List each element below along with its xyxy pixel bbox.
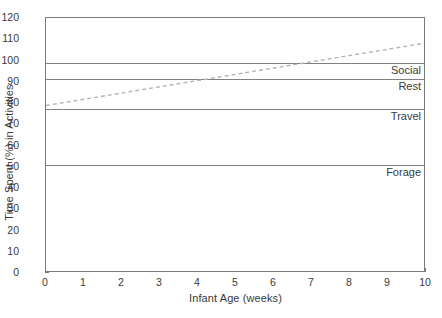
y-tick-label: 100 [0,55,19,65]
x-tick-label: 9 [372,276,402,288]
y-tick-mark [45,272,49,273]
x-tick-mark [425,268,426,272]
x-tick-label: 5 [220,276,250,288]
y-tick-label: 70 [0,118,19,128]
y-tick-label: 90 [0,76,19,86]
x-tick-label: 6 [258,276,288,288]
x-tick-label: 10 [410,276,440,288]
x-tick-label: 7 [296,276,326,288]
chart-figure: Time Spent (%) in Activities Infant Age … [0,0,442,318]
y-tick-label: 20 [0,225,19,235]
boundary-label-travel: Travel [391,110,421,123]
x-tick-label: 1 [68,276,98,288]
x-tick-label: 4 [182,276,212,288]
x-tick-label: 3 [144,276,174,288]
y-tick-label: 0 [0,267,19,277]
trend-line-svg [46,18,424,271]
y-tick-label: 50 [0,161,19,171]
plot-inner [46,18,424,271]
trend-line-trend [46,43,424,105]
plot-area: SocialRestTravelForage [45,17,425,272]
x-tick-label: 0 [30,276,60,288]
y-tick-label: 110 [0,33,19,43]
y-tick-label: 80 [0,97,19,107]
boundary-label-social: Social [391,64,421,77]
x-tick-label: 2 [106,276,136,288]
boundary-label-rest: Rest [398,80,421,93]
boundary-label-forage: Forage [386,166,421,179]
y-tick-label: 60 [0,140,19,150]
y-tick-label: 10 [0,246,19,256]
x-tick-label: 8 [334,276,364,288]
y-tick-label: 40 [0,182,19,192]
x-axis-title: Infant Age (weeks) [45,292,426,304]
y-tick-label: 30 [0,203,19,213]
y-tick-label: 120 [0,12,19,22]
